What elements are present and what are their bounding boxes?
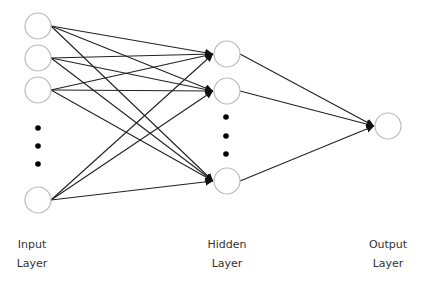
input-layer-label-line1: Input xyxy=(0,235,72,254)
hidden-to-output-edge xyxy=(240,126,374,181)
output-layer-label-line2: Layer xyxy=(348,254,427,273)
input-layer-label-line2: Layer xyxy=(0,254,72,273)
input-node-1-icon xyxy=(25,13,51,39)
connection-edges xyxy=(51,26,374,200)
input-node-2-icon xyxy=(25,45,51,71)
input-layer-label: Input Layer xyxy=(0,235,72,273)
input-ellipsis-dot-icon xyxy=(35,161,41,167)
ellipsis-dots xyxy=(35,114,229,167)
neuron-nodes xyxy=(25,13,401,213)
hidden-to-output-edge xyxy=(240,54,374,126)
input-to-hidden-edge xyxy=(51,58,213,91)
hidden-node-3-icon xyxy=(214,168,240,194)
hidden-ellipsis-dot-icon xyxy=(223,151,229,157)
output-layer-label-line1: Output xyxy=(348,235,427,254)
output-node-1-icon xyxy=(375,113,401,139)
input-to-hidden-edge xyxy=(51,54,213,58)
hidden-layer-label-line1: Hidden xyxy=(187,235,267,254)
hidden-ellipsis-dot-icon xyxy=(223,114,229,120)
hidden-ellipsis-dot-icon xyxy=(223,133,229,139)
input-to-hidden-edge xyxy=(51,26,213,91)
output-layer-label: Output Layer xyxy=(348,235,427,273)
input-ellipsis-dot-icon xyxy=(35,125,41,131)
hidden-node-1-icon xyxy=(214,41,240,67)
input-to-hidden-edge xyxy=(51,54,213,90)
hidden-node-2-icon xyxy=(214,78,240,104)
hidden-to-output-edge xyxy=(240,91,374,126)
input-node-3-icon xyxy=(25,77,51,103)
input-ellipsis-dot-icon xyxy=(35,143,41,149)
hidden-layer-label-line2: Layer xyxy=(187,254,267,273)
input-to-hidden-edge xyxy=(51,90,213,91)
hidden-layer-label: Hidden Layer xyxy=(187,235,267,273)
input-node-4-icon xyxy=(25,187,51,213)
